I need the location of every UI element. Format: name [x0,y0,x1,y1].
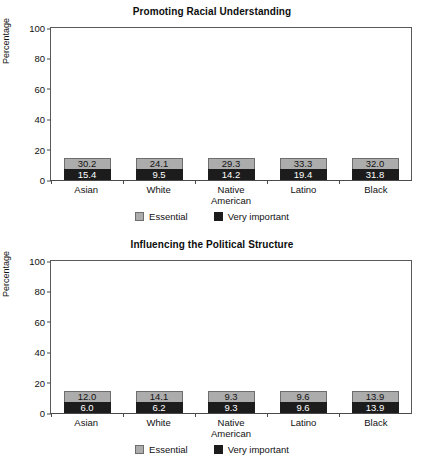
bar-slot: 24.1 9.5 [123,28,195,180]
table-row[interactable]: 29.3 14.2 [208,158,255,180]
chart-influencing-the-political-structure: Influencing the Political Structure Perc… [0,233,424,466]
y-tick-20: 20 [17,144,51,155]
segment-very-important: 6.0 [64,402,111,414]
legend-label: Very important [228,211,289,222]
legend: Essential Very important [0,211,424,222]
x-axis-labels: Asian White NativeAmerican Latino Black [50,417,412,439]
bar-group: 30.2 15.4 24.1 9.5 29.3 14.2 33.3 [51,28,411,180]
legend-swatch-icon [135,212,144,221]
legend-item-very-important[interactable]: Very important [214,211,289,222]
x-label-white: White [122,417,194,439]
legend-label: Essential [149,211,188,222]
legend-swatch-icon [135,445,144,454]
segment-essential: 12.0 [64,391,111,402]
x-label-black: Black [340,184,412,206]
bar-slot: 29.3 14.2 [195,28,267,180]
bar-slot: 30.2 15.4 [51,28,123,180]
legend: Essential Very important [0,444,424,455]
legend-swatch-icon [214,212,223,221]
legend-item-essential[interactable]: Essential [135,211,188,222]
y-tick-40: 40 [17,114,51,125]
y-axis-label: Percentage [1,1,11,81]
x-label-line2: American [211,428,251,439]
x-label-latino: Latino [267,184,339,206]
x-label-line1: Latino [290,417,316,428]
bar-slot: 33.3 19.4 [267,28,339,180]
segment-essential: 14.1 [136,391,183,402]
segment-very-important: 14.2 [208,169,255,181]
segment-essential: 32.0 [352,158,399,169]
legend-item-very-important[interactable]: Very important [214,444,289,455]
plot-area: 100 80 60 40 20 0 30.2 15.4 24.1 9.5 29.… [50,27,412,181]
y-tick-0: 0 [17,408,51,419]
bar-group: 12.0 6.0 14.1 6.2 9.3 9.3 9.6 9.6 [51,261,411,413]
table-row[interactable]: 30.2 15.4 [64,158,111,180]
x-label-line1: Native [218,417,245,428]
y-tick-60: 60 [17,83,51,94]
segment-essential: 30.2 [64,158,111,169]
table-row[interactable]: 13.9 13.9 [352,391,399,413]
x-label-line1: White [146,184,170,195]
segment-very-important: 13.9 [352,402,399,414]
x-label-line1: Asian [74,417,98,428]
y-tick-20: 20 [17,377,51,388]
segment-essential: 33.3 [280,158,327,169]
x-label-asian: Asian [50,417,122,439]
table-row[interactable]: 33.3 19.4 [280,158,327,180]
x-label-line1: White [146,417,170,428]
y-tick-100: 100 [17,23,51,34]
segment-essential: 24.1 [136,158,183,169]
segment-very-important: 6.2 [136,402,183,414]
y-tick-60: 60 [17,316,51,327]
table-row[interactable]: 24.1 9.5 [136,158,183,180]
segment-very-important: 31.8 [352,169,399,181]
segment-very-important: 9.5 [136,169,183,181]
segment-essential: 9.3 [208,391,255,402]
segment-essential: 29.3 [208,158,255,169]
y-tick-80: 80 [17,286,51,297]
x-label-line1: Native [218,184,245,195]
x-label-line1: Asian [74,184,98,195]
legend-swatch-icon [214,445,223,454]
chart-title: Influencing the Political Structure [0,239,424,250]
y-axis-label: Percentage [1,234,11,314]
x-label-native-american: NativeAmerican [195,417,267,439]
segment-essential: 13.9 [352,391,399,402]
segment-very-important: 9.3 [208,402,255,414]
x-label-white: White [122,184,194,206]
legend-label: Very important [228,444,289,455]
plot-area: 100 80 60 40 20 0 12.0 6.0 14.1 6.2 9.3 [50,260,412,414]
bar-slot: 9.6 9.6 [267,261,339,413]
x-axis-labels: Asian White NativeAmerican Latino Black [50,184,412,206]
bar-slot: 14.1 6.2 [123,261,195,413]
y-tick-100: 100 [17,256,51,267]
segment-very-important: 15.4 [64,169,111,181]
bar-slot: 13.9 13.9 [339,261,411,413]
legend-item-essential[interactable]: Essential [135,444,188,455]
x-label-line1: Black [364,184,387,195]
segment-very-important: 19.4 [280,169,327,181]
y-tick-0: 0 [17,175,51,186]
bar-slot: 12.0 6.0 [51,261,123,413]
segment-essential: 9.6 [280,391,327,402]
table-row[interactable]: 12.0 6.0 [64,391,111,413]
y-tick-40: 40 [17,347,51,358]
chart-promoting-racial-understanding: Promoting Racial Understanding Percentag… [0,0,424,233]
table-row[interactable]: 9.3 9.3 [208,391,255,413]
bar-slot: 9.3 9.3 [195,261,267,413]
x-label-latino: Latino [267,417,339,439]
segment-very-important: 9.6 [280,402,327,414]
legend-label: Essential [149,444,188,455]
y-tick-80: 80 [17,53,51,64]
table-row[interactable]: 14.1 6.2 [136,391,183,413]
x-label-asian: Asian [50,184,122,206]
bar-slot: 32.0 31.8 [339,28,411,180]
x-label-line1: Latino [290,184,316,195]
x-label-native-american: NativeAmerican [195,184,267,206]
x-label-black: Black [340,417,412,439]
chart-title: Promoting Racial Understanding [0,6,424,17]
table-row[interactable]: 9.6 9.6 [280,391,327,413]
x-label-line2: American [211,195,251,206]
x-label-line1: Black [364,417,387,428]
table-row[interactable]: 32.0 31.8 [352,158,399,180]
